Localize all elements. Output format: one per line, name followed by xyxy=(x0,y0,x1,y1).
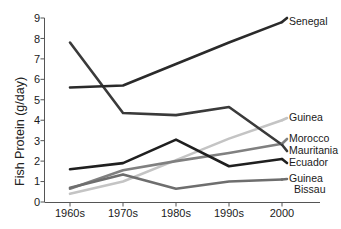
series-line-ecuador xyxy=(70,140,282,170)
plot-area xyxy=(0,0,341,229)
series-line-senegal xyxy=(70,22,282,87)
leader-mauritania xyxy=(282,145,287,151)
label-leader-lines xyxy=(282,18,287,180)
y-axis-ticks xyxy=(41,18,45,202)
x-axis-ticks xyxy=(70,203,282,207)
fish-protein-line-chart: Fish Protein (g/day) 0 1 2 3 4 5 6 7 8 9… xyxy=(0,0,341,229)
leader-guinea-bissau xyxy=(282,179,287,180)
series-line-mauritania xyxy=(70,43,282,145)
leader-senegal xyxy=(282,18,287,22)
series-line-guinea xyxy=(70,120,282,194)
leader-ecuador xyxy=(282,159,287,163)
leader-guinea xyxy=(282,118,287,120)
leader-morocco xyxy=(282,139,287,144)
axes xyxy=(41,18,321,207)
data-series-group xyxy=(70,22,282,194)
